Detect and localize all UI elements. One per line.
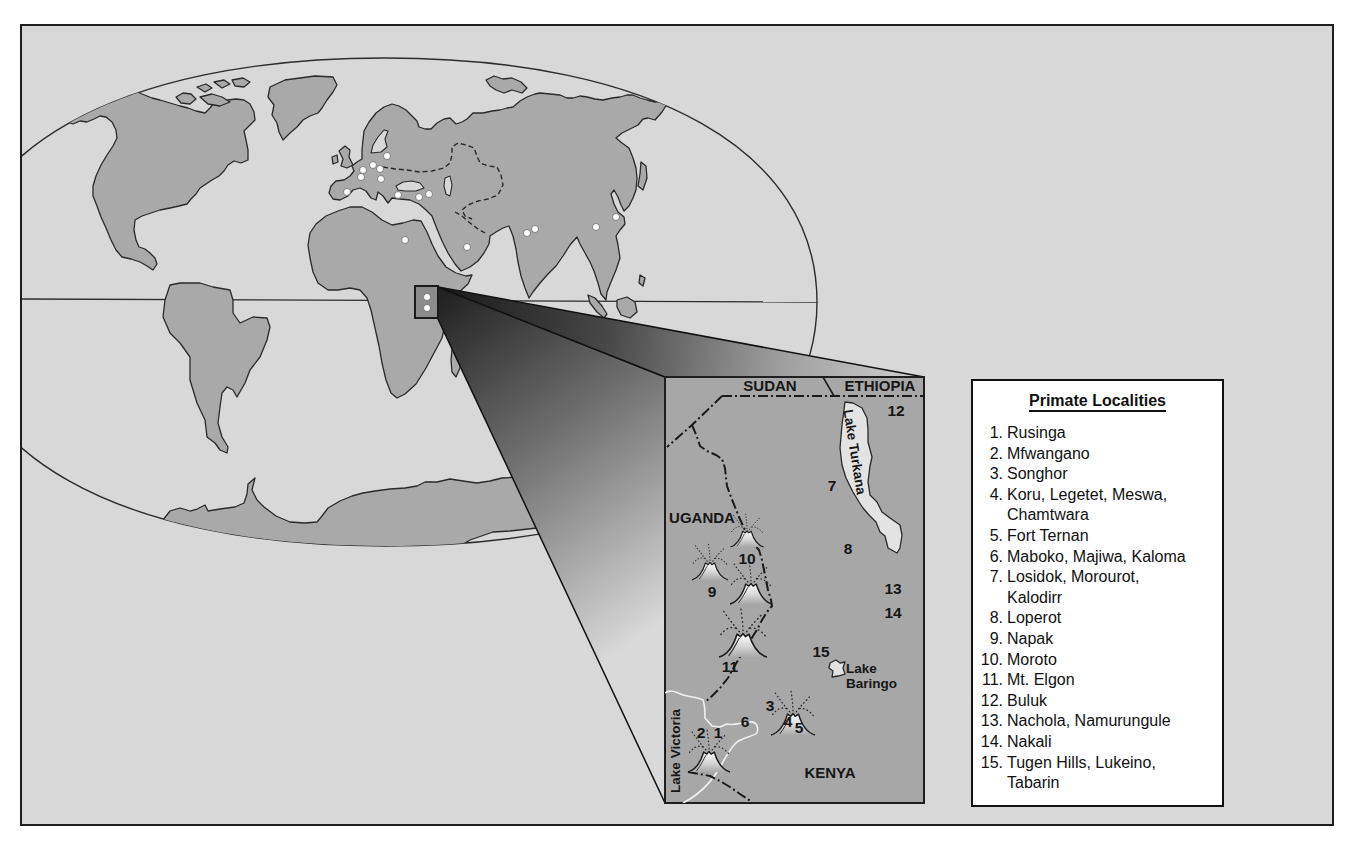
island-novaya-zemlya (486, 76, 527, 93)
legend-item-14: 14.Nakali (973, 732, 1222, 753)
legend-item-number: 3. (973, 464, 1003, 485)
fossil-site-dot (370, 162, 377, 169)
label-sudan: SUDAN (743, 377, 796, 394)
british-isles (332, 146, 353, 168)
fossil-site-dot (378, 176, 385, 183)
fossil-site-dot (358, 174, 365, 181)
legend-item-number: 6. (973, 547, 1003, 568)
legend-item-name: Mt. Elgon (1007, 670, 1075, 691)
legend-item-name: Nakali (1007, 732, 1051, 753)
legend-item-13: 13.Nachola, Namurungule (973, 711, 1222, 732)
legend-item-number: 12. (973, 691, 1003, 712)
legend-item-number: 13. (973, 711, 1003, 732)
fossil-site-dot (524, 230, 531, 237)
legend-item-number: 11. (973, 670, 1003, 691)
legend-item-number: 7. (973, 567, 1003, 588)
legend-item-name: Nachola, Namurungule (1007, 711, 1171, 732)
legend-item-name: Koru, Legetet, Meswa, (1007, 485, 1167, 506)
legend-item-number: 9. (973, 629, 1003, 650)
legend-item-4: 4.Koru, Legetet, Meswa, (973, 485, 1222, 506)
locality-number-10: 10 (738, 550, 755, 567)
caspian-sea (444, 176, 452, 196)
label-uganda: UGANDA (669, 509, 735, 526)
continent-north-america (67, 90, 255, 270)
locality-number-15: 15 (812, 643, 830, 660)
legend-item-6: 6.Maboko, Majiwa, Kaloma (973, 547, 1222, 568)
locality-number-4: 4 (784, 713, 793, 730)
locality-number-11: 11 (722, 658, 739, 675)
legend-item-5: 5.Fort Ternan (973, 526, 1222, 547)
fossil-site-dot (613, 214, 620, 221)
legend-item-15-continued: Tabarin (973, 773, 1222, 794)
fossil-site-dot (464, 244, 471, 251)
label-lake-baringo-line2: Baringo (846, 676, 897, 691)
legend-item-number: 5. (973, 526, 1003, 547)
fossil-site-dot (402, 237, 409, 244)
legend-primate-localities: Primate Localities 1.Rusinga 2.Mfwangano… (971, 379, 1224, 807)
legend-item-15: 15.Tugen Hills, Lukeino, (973, 753, 1222, 774)
fossil-site-dot (426, 191, 433, 198)
legend-item-name: Losidok, Morourot, (1007, 567, 1140, 588)
legend-item-11: 11.Mt. Elgon (973, 670, 1222, 691)
fossil-site-dot (360, 167, 367, 174)
legend-item-4-continued: Chamtwara (973, 505, 1222, 526)
legend-item-2: 2.Mfwangano (973, 444, 1222, 465)
inset-marker-site-dot (424, 294, 431, 301)
fossil-site-dot (532, 226, 539, 233)
legend-item-number: 8. (973, 608, 1003, 629)
island-japan (638, 162, 647, 190)
label-lake-victoria: Lake Victoria (668, 709, 683, 793)
locality-number-1: 1 (714, 724, 723, 741)
inset-location-marker (415, 286, 438, 318)
legend-item-7: 7.Losidok, Morourot, (973, 567, 1222, 588)
legend-item-number: 1. (973, 423, 1003, 444)
locality-number-3: 3 (766, 697, 775, 714)
locality-number-6: 6 (741, 713, 750, 730)
legend-item-number: 10. (973, 650, 1003, 671)
fossil-site-dot (377, 166, 384, 173)
fossil-site-dot (344, 189, 351, 196)
locality-number-9: 9 (708, 583, 717, 600)
locality-number-7: 7 (828, 477, 837, 494)
locality-number-5: 5 (795, 719, 804, 736)
legend-item-number: 4. (973, 485, 1003, 506)
zoom-funnel-left-face (438, 287, 665, 803)
locality-number-8: 8 (844, 540, 853, 557)
locality-number-14: 14 (884, 604, 902, 621)
legend-item-name: Maboko, Majiwa, Kaloma (1007, 547, 1186, 568)
legend-item-9: 9.Napak (973, 629, 1222, 650)
continent-antarctica (163, 476, 560, 548)
legend-item-1: 1.Rusinga (973, 423, 1222, 444)
islands-southeast-asia (588, 275, 645, 318)
locality-number-2: 2 (697, 724, 706, 741)
locality-number-12: 12 (887, 402, 904, 419)
legend-item-10: 10.Moroto (973, 650, 1222, 671)
label-kenya: KENYA (804, 764, 855, 781)
legend-list: 1.Rusinga 2.Mfwangano 3.Songhor 4.Koru, … (973, 423, 1222, 794)
fossil-site-dot (395, 192, 402, 199)
legend-item-name: Napak (1007, 629, 1053, 650)
label-lake-baringo-line1: Lake (846, 661, 877, 676)
legend-item-name: Loperot (1007, 608, 1061, 629)
legend-item-name: Songhor (1007, 464, 1068, 485)
legend-title-text: Primate Localities (1029, 392, 1166, 412)
legend-item-3: 3.Songhor (973, 464, 1222, 485)
legend-item-8: 8.Loperot (973, 608, 1222, 629)
legend-item-number: 14. (973, 732, 1003, 753)
locality-number-13: 13 (884, 580, 902, 597)
fossil-site-dot (416, 194, 423, 201)
legend-title: Primate Localities (973, 392, 1222, 410)
legend-item-7-continued: Kalodirr (973, 588, 1222, 609)
legend-item-name: Moroto (1007, 650, 1057, 671)
legend-item-12: 12.Buluk (973, 691, 1222, 712)
legend-item-number: 15. (973, 753, 1003, 774)
continent-south-america (163, 283, 270, 453)
legend-item-name: Rusinga (1007, 423, 1066, 444)
legend-item-number: 2. (973, 444, 1003, 465)
inset-map-east-africa: SUDAN ETHIOPIA UGANDA KENYA Lake Turkana… (665, 377, 924, 803)
legend-item-name: Buluk (1007, 691, 1047, 712)
fossil-site-dot (384, 153, 391, 160)
legend-item-name: Fort Ternan (1007, 526, 1089, 547)
fossil-site-dot (593, 224, 600, 231)
continent-greenland (268, 76, 337, 140)
